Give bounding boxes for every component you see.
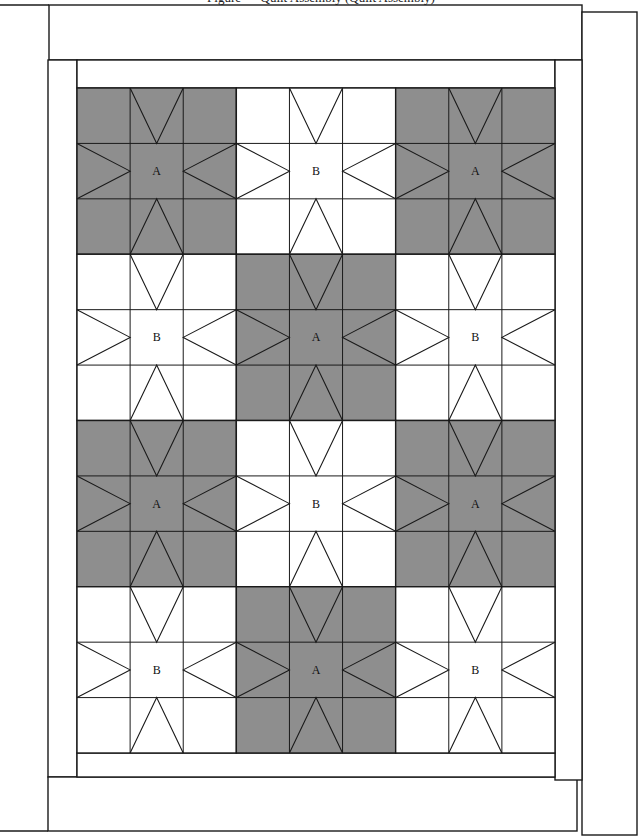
quilt-block-a: A	[236, 587, 395, 753]
border-top-outer	[49, 5, 582, 60]
border-right-outer	[582, 12, 637, 835]
border-bottom-inner	[77, 753, 555, 777]
block-label: A	[471, 164, 480, 178]
block-label: A	[471, 497, 480, 511]
border-left-outer	[48, 60, 77, 777]
quilt-block-b: B	[236, 88, 395, 254]
page-rules	[0, 5, 49, 831]
quilt-block-grid: ABABABABABAB	[77, 88, 555, 753]
block-label: A	[152, 497, 161, 511]
border-bottom-outer	[48, 777, 577, 831]
quilt-block-b: B	[396, 254, 555, 420]
block-label: A	[152, 164, 161, 178]
block-label: B	[312, 164, 320, 178]
block-label: B	[153, 663, 161, 677]
quilt-block-a: A	[77, 88, 236, 254]
block-label: A	[312, 330, 321, 344]
block-label: A	[312, 663, 321, 677]
quilt-block-a: A	[396, 88, 555, 254]
quilt-block-b: B	[77, 587, 236, 753]
quilt-block-a: A	[396, 421, 555, 587]
quilt-assembly-diagram: ABABABABABAB	[0, 0, 642, 840]
quilt-block-b: B	[77, 254, 236, 420]
block-label: B	[471, 663, 479, 677]
quilt-block-b: B	[396, 587, 555, 753]
block-label: B	[471, 330, 479, 344]
quilt-block-b: B	[236, 421, 395, 587]
quilt-block-a: A	[236, 254, 395, 420]
block-label: B	[312, 497, 320, 511]
border-right-inner	[555, 60, 582, 780]
quilt-block-a: A	[77, 421, 236, 587]
border-top-inner	[77, 60, 555, 88]
block-label: B	[153, 330, 161, 344]
